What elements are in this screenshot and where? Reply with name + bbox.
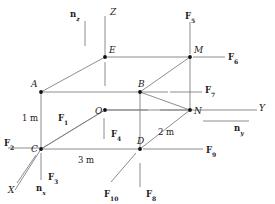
normal-label-n_z: nz <box>70 10 80 21</box>
force-label-F1: F1 <box>58 114 68 125</box>
vertex-dot-D <box>138 147 142 151</box>
vertex-label-M: M <box>194 46 203 55</box>
vertex-dot-O <box>103 108 107 112</box>
vertex-label-O: O <box>95 107 102 116</box>
force-label-F2: F2 <box>4 139 14 150</box>
vertex-dot-B <box>138 90 142 94</box>
vertex-label-C: C <box>31 145 38 154</box>
vertex-dot-E <box>103 55 107 59</box>
force-label-F7: F7 <box>205 86 215 97</box>
vertex-label-D: D <box>137 137 144 146</box>
axis-label-Y: Y <box>259 104 265 113</box>
dimension-label-depth-2m: 2 m <box>158 128 174 137</box>
vertex-label-E: E <box>109 46 116 55</box>
force-label-F8: F8 <box>146 190 156 201</box>
box-edge-MB <box>140 57 190 92</box>
normal-tick-n_x <box>17 155 36 183</box>
normal-label-n_y: ny <box>234 124 244 135</box>
figure-canvas: ZYXnznynxF1F2F3F4F5F6F7F8F9F10ABCDEMNO1 … <box>0 0 275 204</box>
vertex-label-N: N <box>194 107 202 116</box>
vertex-label-A: A <box>31 80 38 89</box>
box-edge-BN <box>140 92 190 110</box>
box-edge-EA <box>41 57 105 92</box>
dimension-label-height-1m: 1 m <box>22 114 38 123</box>
vertex-dot-C <box>39 147 43 151</box>
vertex-dot-N <box>188 108 192 112</box>
normal-label-n_x: nx <box>36 184 46 195</box>
force-line-F1 <box>41 111 103 149</box>
force-label-F5: F5 <box>185 12 195 23</box>
diagram-svg <box>0 0 275 204</box>
force-label-F10: F10 <box>104 190 118 201</box>
vertex-label-B: B <box>138 80 145 89</box>
dimension-label-width-3m: 3 m <box>78 156 94 165</box>
force-line-F10 <box>111 153 136 182</box>
vertex-dot-M <box>188 55 192 59</box>
force-label-F4: F4 <box>111 130 121 141</box>
axis-label-Z: Z <box>110 8 116 17</box>
force-label-F3: F3 <box>48 173 58 184</box>
vertex-dot-A <box>39 90 43 94</box>
axis-label-X: X <box>8 186 14 195</box>
force-label-F6: F6 <box>228 53 238 64</box>
force-label-F9: F9 <box>206 146 216 157</box>
